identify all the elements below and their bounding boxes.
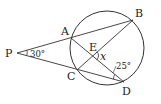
point-label-B: B (135, 7, 143, 20)
point-label-C: C (67, 70, 75, 83)
angle-D-arc (113, 74, 114, 79)
point-label-E: E (89, 41, 97, 54)
geometry-diagram: P A B C D E 30° 25° x (0, 0, 161, 104)
point-label-A: A (60, 25, 70, 38)
angle-P-arc (27, 50, 28, 55)
angle-label-x: x (100, 50, 107, 63)
circle (70, 11, 144, 85)
angle-label-D: 25° (116, 61, 131, 71)
point-label-P: P (5, 47, 13, 60)
point-label-D: D (122, 85, 131, 98)
chord-AD (71, 38, 124, 82)
angle-label-P: 30° (30, 49, 45, 59)
